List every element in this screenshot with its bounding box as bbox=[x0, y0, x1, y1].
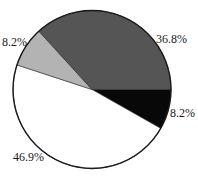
label-light-gray-slice: 8.2% bbox=[2, 36, 27, 48]
label-white-slice: 46.9% bbox=[13, 151, 44, 163]
label-black-slice: 8.2% bbox=[170, 107, 195, 119]
pie-slices bbox=[13, 11, 171, 169]
label-dark-gray-slice: 36.8% bbox=[156, 33, 187, 45]
